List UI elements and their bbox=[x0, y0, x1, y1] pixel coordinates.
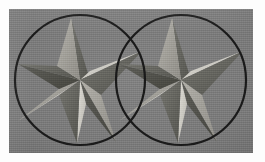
image-canvas bbox=[0, 0, 265, 162]
panel-fill bbox=[9, 9, 253, 153]
figure-svg bbox=[9, 9, 253, 153]
gray-panel bbox=[9, 9, 253, 153]
